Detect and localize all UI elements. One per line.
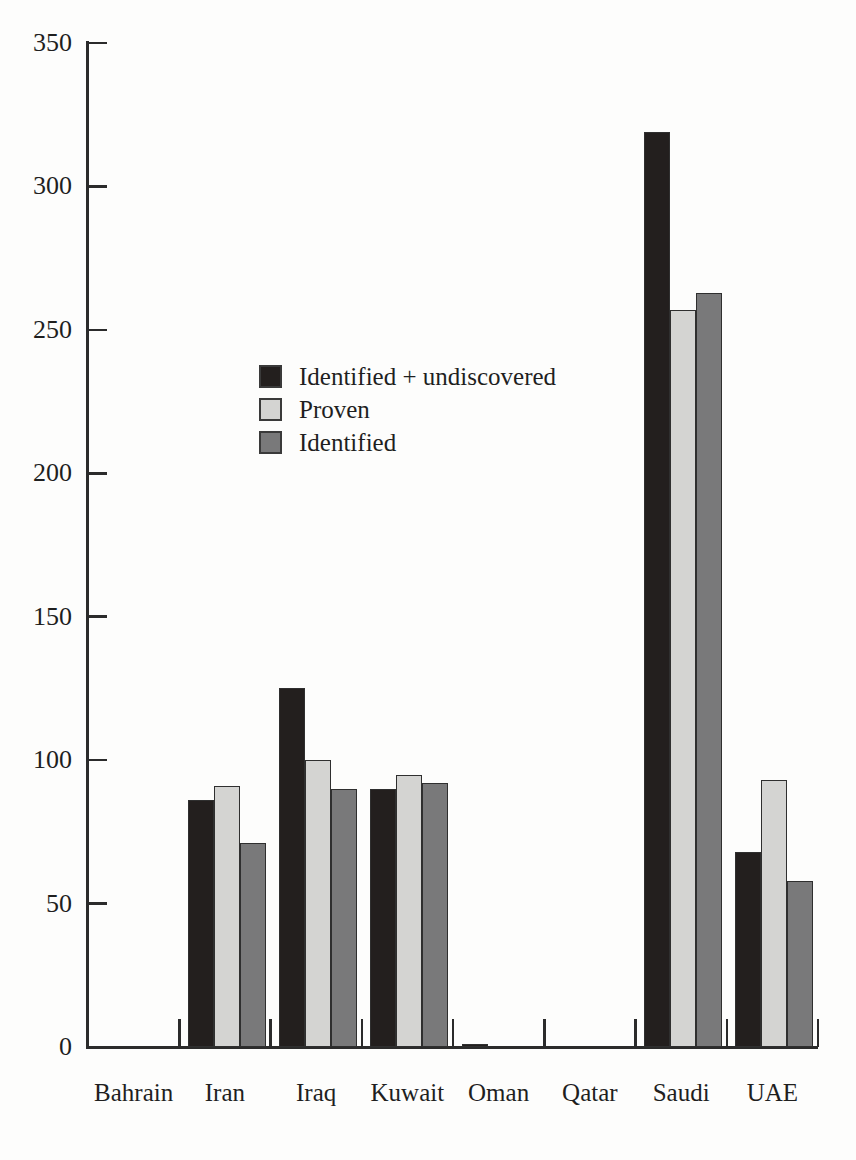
- bar: [787, 881, 813, 1047]
- x-axis-label: Kuwait: [371, 1079, 445, 1107]
- y-axis-tick-label: 200: [0, 460, 72, 486]
- x-axis-label: Saudi: [653, 1079, 710, 1107]
- bar: [240, 843, 266, 1047]
- legend-item: Identified: [259, 426, 556, 459]
- x-axis-label: UAE: [747, 1079, 798, 1107]
- y-axis-tick-label: 150: [0, 604, 72, 630]
- legend-label-identified-undiscovered: Identified + undiscovered: [299, 364, 556, 389]
- x-axis-label: Bahrain: [94, 1079, 173, 1107]
- bar: [644, 132, 670, 1047]
- legend-item: Proven: [259, 393, 556, 426]
- bar: [670, 310, 696, 1047]
- x-axis-label: Iraq: [296, 1079, 336, 1107]
- legend-label-identified: Identified: [299, 430, 396, 455]
- legend-label-proven: Proven: [299, 397, 370, 422]
- y-axis-tick-label: 50: [0, 891, 72, 917]
- bar: [735, 852, 761, 1047]
- legend-swatch-identified-undiscovered: [259, 365, 282, 388]
- legend-swatch-identified: [259, 431, 282, 454]
- bar: [761, 780, 787, 1047]
- bar: [370, 789, 396, 1047]
- bar: [696, 293, 722, 1047]
- bar: [331, 789, 357, 1047]
- y-axis-tick-label: 100: [0, 747, 72, 773]
- x-axis-label: Iran: [205, 1079, 245, 1107]
- y-axis-tick-label: 300: [0, 173, 72, 199]
- x-axis-label: Qatar: [562, 1079, 618, 1107]
- bar: [214, 786, 240, 1047]
- x-axis-label: Oman: [468, 1079, 529, 1107]
- legend-item: Identified + undiscovered: [259, 360, 556, 393]
- bar: [305, 760, 331, 1047]
- bars-layer: [88, 43, 818, 1047]
- bar-chart-figure: 050100150200250300350 BahrainIranIraqKuw…: [0, 0, 856, 1160]
- chart-legend: Identified + undiscovered Proven Identif…: [259, 360, 556, 459]
- legend-swatch-proven: [259, 398, 282, 421]
- bar: [396, 775, 422, 1048]
- bar: [279, 688, 305, 1047]
- y-axis-tick-label: 250: [0, 317, 72, 343]
- y-axis-tick-label: 0: [0, 1034, 72, 1060]
- bar: [188, 800, 214, 1047]
- bar: [462, 1044, 488, 1047]
- bar: [422, 783, 448, 1047]
- y-axis-tick-label: 350: [0, 30, 72, 56]
